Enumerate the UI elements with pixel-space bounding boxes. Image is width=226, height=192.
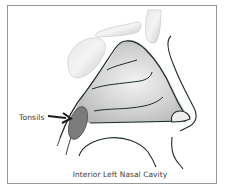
lip-profile (172, 137, 183, 169)
nasal-cavity-illustration (0, 0, 226, 192)
nostril (171, 111, 190, 122)
diagram-caption: Interior Left Nasal Cavity (0, 170, 226, 179)
palate-curve (79, 138, 156, 167)
tonsils-label: Tonsils (19, 113, 45, 122)
throat-lines (57, 137, 71, 155)
